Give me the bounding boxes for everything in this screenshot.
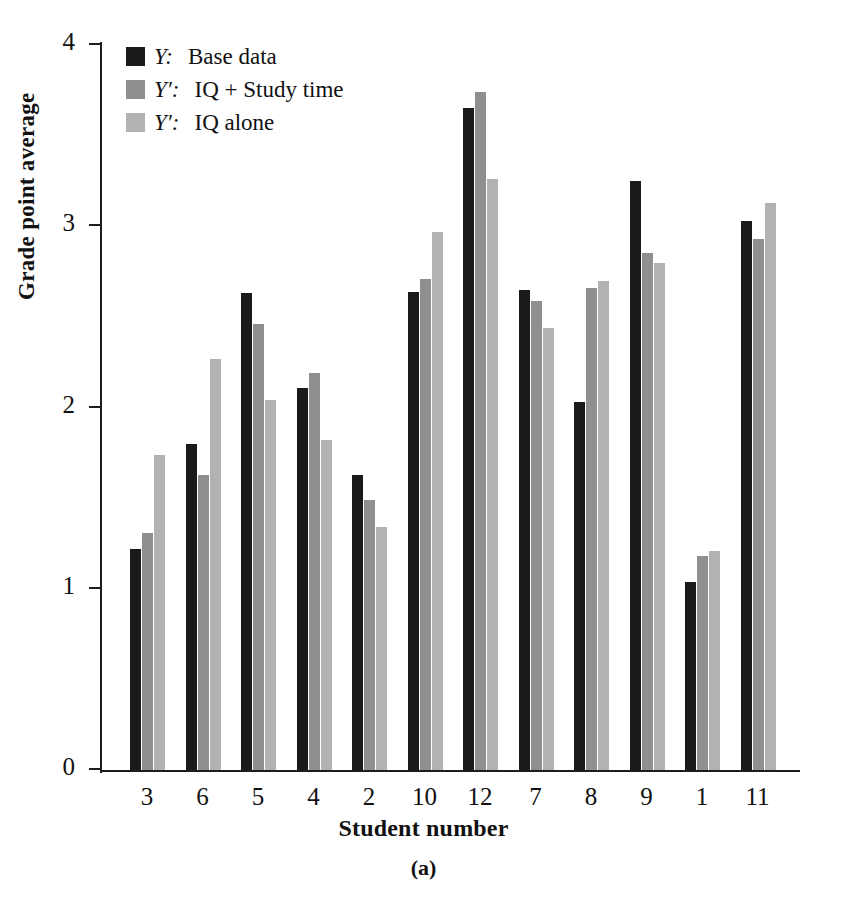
y-axis-tick: 4 [89,43,101,45]
x-axis-tick-label: 3 [125,783,169,811]
legend-series-label: IQ alone [194,106,274,139]
bar [352,475,363,770]
bar [241,293,252,770]
bar-group [186,45,221,770]
x-axis-tick-label: 9 [625,783,669,811]
legend-swatch-icon [126,80,145,99]
bar [519,290,530,770]
chart-legend: Y:Base dataY′:IQ + Study timeY′:IQ alone [126,40,344,139]
bar-group [463,45,498,770]
legend-series-key: Y′: [154,106,179,139]
bar [531,301,542,770]
bar-group [741,45,776,770]
legend-series-key: Y: [154,40,173,73]
x-axis-tick-label: 1 [680,783,724,811]
bar [741,221,752,770]
y-axis-tick-label: 1 [63,573,76,599]
x-axis-tick-label: 12 [458,783,502,811]
bar-group [241,45,276,770]
y-axis-tick-label: 4 [63,29,76,55]
bar [198,475,209,770]
bar [364,500,375,770]
y-axis-tick-label: 3 [63,210,76,236]
bar [630,181,641,770]
x-axis-tick-label: 10 [403,783,447,811]
y-axis-tick-label: 0 [63,754,76,780]
y-axis-tick: 1 [89,587,101,589]
bar [765,203,776,770]
bar [463,108,474,770]
legend-swatch-icon [126,47,145,66]
y-axis-tick: 3 [89,224,101,226]
y-axis-tick-label: 2 [63,392,76,418]
bar [154,455,165,770]
y-axis-title: Grade point average [14,92,40,300]
bar [408,292,419,771]
bar [642,253,653,770]
bar [309,373,320,770]
bar [432,232,443,770]
x-axis-tick-label: 8 [569,783,613,811]
bar-group [408,45,443,770]
bar [297,388,308,770]
bar [697,556,708,770]
bar [142,533,153,770]
bar [321,440,332,770]
bar [253,324,264,770]
bar-group [297,45,332,770]
bar [186,444,197,770]
bar [265,400,276,770]
bar [586,288,597,770]
legend-series-key: Y′: [154,73,179,106]
bar [376,527,387,770]
plot-area: 01234365421012789111 [100,45,800,770]
bar-group [630,45,665,770]
bar [210,359,221,770]
y-axis-tick: 0 [89,768,101,770]
legend-item: Y′:IQ + Study time [126,73,344,106]
bar [598,281,609,770]
bar [130,549,141,770]
legend-swatch-icon [126,113,145,132]
bar [420,279,431,770]
x-axis-title: Student number [0,815,847,842]
bar [685,582,696,771]
bar [475,92,486,770]
legend-series-label: IQ + Study time [194,73,343,106]
x-axis-tick-label: 5 [236,783,280,811]
bar [709,551,720,770]
x-axis-tick-label: 4 [292,783,336,811]
bar-group [352,45,387,770]
bar [574,402,585,770]
legend-item: Y′:IQ alone [126,106,344,139]
bar [654,263,665,771]
y-axis-tick: 2 [89,406,101,408]
bar-group [519,45,554,770]
bar [487,179,498,770]
x-axis-line [100,770,800,772]
x-axis-tick-label: 7 [514,783,558,811]
bar-group [574,45,609,770]
x-axis-tick-label: 2 [347,783,391,811]
x-axis-tick-label: 11 [736,783,780,811]
bar-group [130,45,165,770]
legend-series-label: Base data [188,40,277,73]
figure-panel-a: Grade point average 01234365421012789111… [0,0,847,898]
bar [543,328,554,770]
figure-caption: (a) [0,855,847,881]
bar [753,239,764,770]
legend-item: Y:Base data [126,40,344,73]
x-axis-tick-label: 6 [181,783,225,811]
bar-group [685,45,720,770]
